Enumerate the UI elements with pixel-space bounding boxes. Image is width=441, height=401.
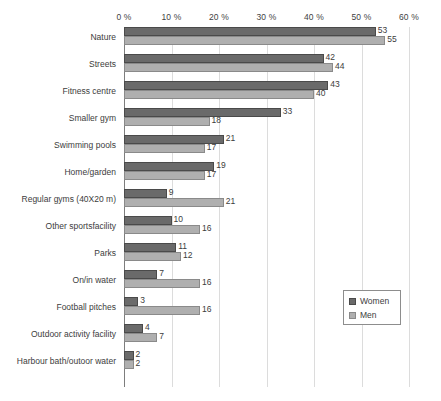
legend-item-men: Men — [349, 309, 400, 322]
bar-chart: 0 %10 %20 %30 %40 %50 %60 % NatureStreet… — [0, 0, 441, 401]
bar-value-women: 9 — [169, 187, 174, 197]
bar-value-women: 33 — [283, 106, 292, 116]
y-category-label: Swimming pools — [54, 140, 116, 150]
y-category-label: Nature — [90, 32, 116, 42]
bar-women — [124, 108, 281, 117]
y-category-label: Football pitches — [56, 302, 116, 312]
bar-value-men: 17 — [207, 169, 216, 179]
bar-men — [124, 306, 200, 315]
bar-women — [124, 54, 324, 63]
y-category-label: Smaller gym — [69, 113, 116, 123]
bar-group: 1112 — [124, 243, 441, 262]
bar-women — [124, 243, 176, 252]
x-tick-label-30: 30 % — [256, 12, 276, 22]
bar-men — [124, 117, 210, 126]
bar-men — [124, 225, 200, 234]
bar-value-women: 21 — [226, 133, 235, 143]
bar-group: 47 — [124, 324, 441, 343]
legend-label-men: Men — [360, 311, 377, 320]
y-category-label: Streets — [89, 59, 116, 69]
y-category-label: Harbour bath/outoor water — [17, 356, 116, 366]
legend-item-women: Women — [349, 295, 400, 308]
x-tick-label-40: 40 % — [304, 12, 324, 22]
bar-value-men: 16 — [202, 277, 211, 287]
bar-group: 1016 — [124, 216, 441, 235]
bar-group: 2117 — [124, 135, 441, 154]
bar-value-women: 43 — [330, 79, 339, 89]
y-category-label: Fitness centre — [63, 86, 116, 96]
bar-men — [124, 279, 200, 288]
bar-value-men: 21 — [226, 196, 235, 206]
y-category-label: Parks — [94, 248, 116, 258]
bar-value-women: 53 — [378, 25, 387, 35]
y-category-label: Outdoor activity facility — [31, 329, 116, 339]
x-tick-label-20: 20 % — [209, 12, 229, 22]
bar-value-men: 18 — [212, 115, 221, 125]
x-tick-label-50: 50 % — [351, 12, 371, 22]
bar-women — [124, 351, 134, 360]
bar-women — [124, 270, 157, 279]
bar-value-women: 19 — [216, 160, 225, 170]
bar-value-women: 10 — [174, 214, 183, 224]
bar-value-men: 16 — [202, 223, 211, 233]
bar-men — [124, 252, 181, 261]
bar-women — [124, 81, 328, 90]
bar-men — [124, 144, 205, 153]
bar-men — [124, 171, 205, 180]
y-category-label: On/in water — [73, 275, 116, 285]
bar-women — [124, 189, 167, 198]
y-category-label: Home/garden — [64, 167, 116, 177]
bar-women — [124, 27, 376, 36]
bar-women — [124, 162, 214, 171]
bar-group: 22 — [124, 351, 441, 370]
bar-value-men: 40 — [316, 88, 325, 98]
x-tick-label-60: 60 % — [399, 12, 419, 22]
bar-value-men: 2 — [136, 358, 141, 368]
bar-value-men: 44 — [335, 61, 344, 71]
bar-men — [124, 198, 224, 207]
bar-value-men: 16 — [202, 304, 211, 314]
bar-value-men: 17 — [207, 142, 216, 152]
bar-men — [124, 63, 333, 72]
bar-value-women: 7 — [159, 268, 164, 278]
bar-group: 3318 — [124, 108, 441, 127]
legend-swatch-men-icon — [349, 312, 356, 319]
x-tick-label-0: 0 % — [116, 12, 131, 22]
bar-group: 921 — [124, 189, 441, 208]
legend-swatch-women-icon — [349, 298, 356, 305]
bar-group: 4244 — [124, 54, 441, 73]
bar-value-women: 3 — [140, 295, 145, 305]
bar-group: 1917 — [124, 162, 441, 181]
chart-legend: Women Men — [343, 290, 401, 325]
x-axis-tick-labels: 0 %10 %20 %30 %40 %50 %60 % — [0, 12, 441, 26]
bar-women — [124, 324, 143, 333]
bar-men — [124, 90, 314, 99]
legend-label-women: Women — [360, 297, 389, 306]
bar-value-women: 4 — [145, 322, 150, 332]
bar-men — [124, 360, 134, 369]
bar-women — [124, 216, 172, 225]
bar-men — [124, 333, 157, 342]
bar-women — [124, 297, 138, 306]
bar-value-men: 55 — [387, 34, 396, 44]
bar-value-women: 42 — [326, 52, 335, 62]
bar-group: 716 — [124, 270, 441, 289]
bar-men — [124, 36, 385, 45]
x-tick-label-10: 10 % — [161, 12, 181, 22]
bar-group: 4340 — [124, 81, 441, 100]
y-category-label: Regular gyms (40X20 m) — [22, 194, 116, 204]
bar-group: 5355 — [124, 27, 441, 46]
bar-rows-layer: 5355424443403318211719179211016111271631… — [124, 27, 441, 387]
y-axis-category-labels: NatureStreetsFitness centreSmaller gymSw… — [0, 27, 120, 387]
y-category-label: Other sportsfacility — [46, 221, 116, 231]
bar-value-men: 7 — [159, 331, 164, 341]
bar-value-men: 12 — [183, 250, 192, 260]
